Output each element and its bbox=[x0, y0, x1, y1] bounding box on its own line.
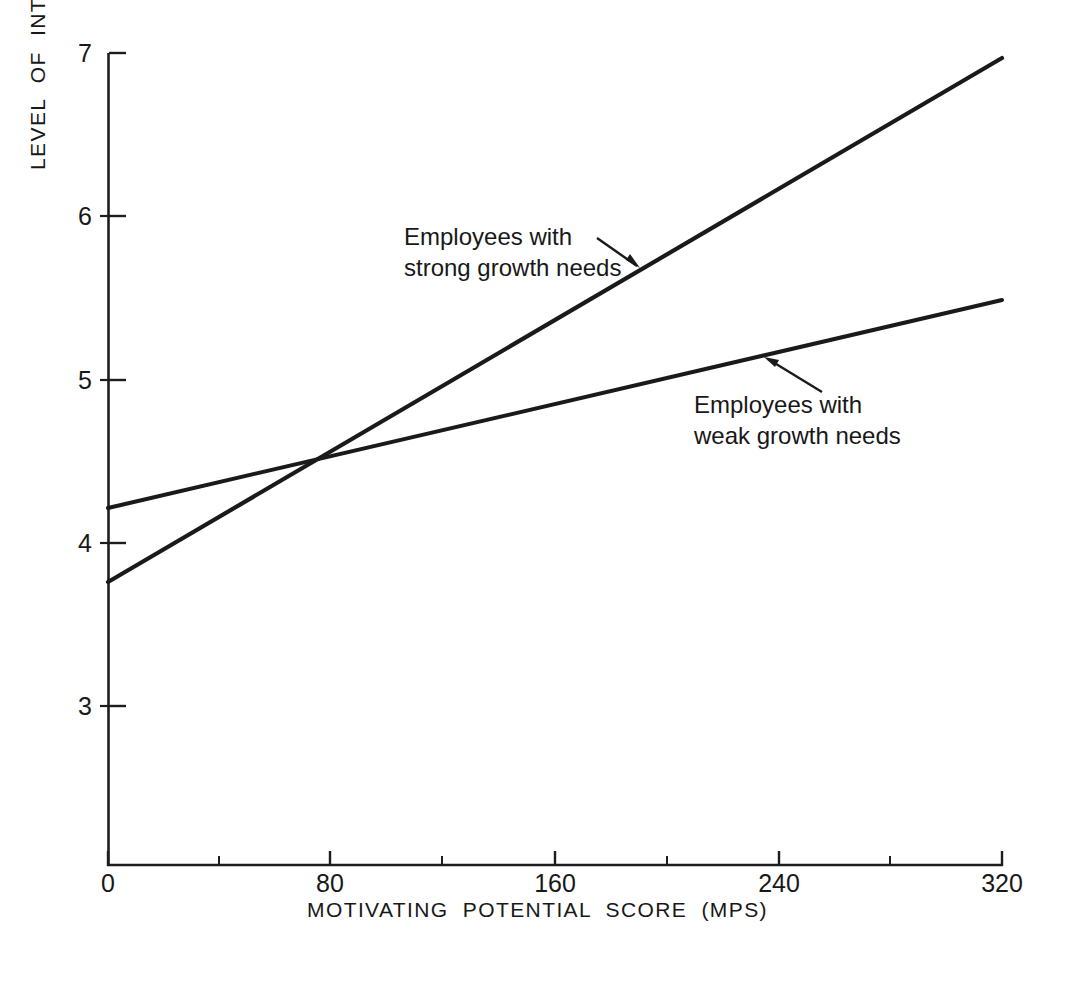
annotation-weak-line2: weak growth needs bbox=[694, 421, 901, 452]
x-tick-label-320: 320 bbox=[965, 869, 1039, 898]
annotation-weak-growth-needs: Employees with weak growth needs bbox=[694, 390, 901, 451]
chart-figure: 7 6 5 4 3 0 80 160 240 320 MOTIVATING PO… bbox=[0, 0, 1075, 982]
annotation-strong-line2: strong growth needs bbox=[404, 253, 621, 284]
x-axis-title: MOTIVATING POTENTIAL SCORE (MPS) bbox=[0, 898, 1075, 922]
x-tick-label-160: 160 bbox=[518, 869, 592, 898]
y-tick-label-6: 6 bbox=[44, 202, 92, 231]
y-tick-label-4: 4 bbox=[44, 529, 92, 558]
annotation-leader-weak bbox=[764, 357, 822, 392]
annotation-strong-growth-needs: Employees with strong growth needs bbox=[404, 222, 621, 283]
y-tick-label-3: 3 bbox=[44, 692, 92, 721]
x-tick-label-0: 0 bbox=[78, 869, 138, 898]
x-tick-label-80: 80 bbox=[300, 869, 360, 898]
series-line-strong-growth-needs bbox=[108, 58, 1002, 582]
annotation-strong-line1: Employees with bbox=[404, 222, 621, 253]
y-tick-label-5: 5 bbox=[44, 366, 92, 395]
plot-area bbox=[0, 0, 1075, 982]
y-tick-label-7: 7 bbox=[44, 39, 92, 68]
y-axis-ticks bbox=[109, 53, 126, 706]
y-axis-title: LEVEL OF INTERNAL WORK MOTIVATION bbox=[26, 0, 50, 170]
annotation-weak-line1: Employees with bbox=[694, 390, 901, 421]
x-tick-label-240: 240 bbox=[742, 869, 816, 898]
